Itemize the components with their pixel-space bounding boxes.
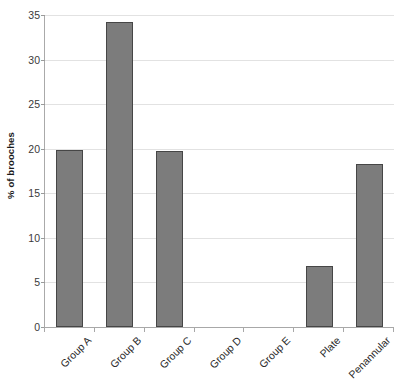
- x-tick-mark: [144, 328, 145, 332]
- bars-layer: [45, 15, 394, 327]
- x-tick-mark: [243, 328, 244, 332]
- x-tick-label: Group E: [257, 334, 293, 370]
- x-axis-line: [44, 327, 394, 328]
- bar-chart: % of brooches 05101520253035 Group AGrou…: [0, 0, 407, 391]
- x-tick-label: Group A: [58, 334, 94, 370]
- y-tick-label: 25: [18, 98, 40, 110]
- bar: [306, 266, 333, 328]
- x-tick-mark: [293, 328, 294, 332]
- x-tick-label: Group D: [206, 334, 243, 371]
- x-tick-mark: [44, 328, 45, 332]
- x-tick-mark: [343, 328, 344, 332]
- bar: [156, 151, 183, 328]
- y-tick-label: 20: [18, 143, 40, 155]
- x-tick-mark: [393, 328, 394, 332]
- x-tick-label: Group B: [107, 334, 143, 370]
- x-tick-mark: [94, 328, 95, 332]
- x-tick-label: Penannular: [346, 334, 392, 380]
- x-tick-label: Group C: [157, 334, 194, 371]
- y-tick-label: 0: [18, 321, 40, 333]
- y-tick-label: 5: [18, 276, 40, 288]
- y-tick-label: 35: [18, 9, 40, 21]
- y-tick-label: 30: [18, 54, 40, 66]
- y-tick-label: 10: [18, 232, 40, 244]
- bar: [356, 164, 383, 327]
- y-tick-label: 15: [18, 187, 40, 199]
- x-tick-label: Plate: [317, 334, 342, 359]
- plot-area: [44, 15, 394, 327]
- y-axis-tick-labels: 05101520253035: [14, 0, 40, 391]
- x-tick-mark: [194, 328, 195, 332]
- bar: [56, 150, 83, 327]
- bar: [106, 22, 133, 327]
